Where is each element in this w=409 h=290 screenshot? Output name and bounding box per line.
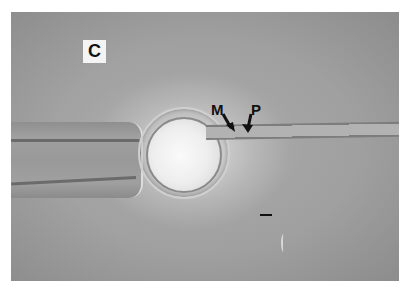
holding-pipette: [11, 122, 143, 198]
arrow-p-icon: [240, 113, 256, 133]
micrograph: [11, 12, 399, 281]
scale-bar: [260, 214, 272, 216]
pipette-lumen-top: [11, 139, 141, 142]
panel-label: C: [83, 40, 106, 63]
debris: [281, 234, 286, 252]
arrow-m-icon: [220, 113, 236, 133]
